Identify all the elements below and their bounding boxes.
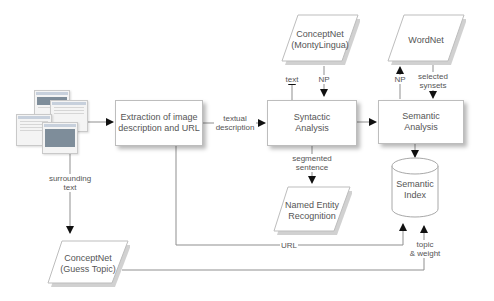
web-pages-image [14, 90, 88, 154]
semantic-label-1: Semantic [402, 111, 440, 122]
syntactic-label-2: Analysis [294, 123, 331, 134]
edge-label-surrounding-text: surrounding text [48, 174, 92, 192]
conceptnet-guess-topic-node: ConceptNet (Guess Topic) [46, 240, 130, 288]
conceptnet-guess-label-1: ConceptNet [60, 253, 115, 264]
edge-label-selected-synsets: selected synsets [417, 72, 449, 90]
syntactic-label-1: Syntactic [294, 112, 331, 123]
edge-label-np-wordnet: NP [393, 75, 407, 84]
semantic-analysis-box: Semantic Analysis [378, 100, 464, 144]
edge-label-text: text [283, 75, 301, 84]
conceptnet-montylingua-node: ConceptNet (MontyLingua) [280, 14, 360, 66]
semantic-label-2: Analysis [402, 122, 440, 133]
named-entity-recognition-node: Named Entity Recognition [272, 186, 352, 236]
semantic-index-database: Semantic Index [391, 157, 439, 219]
extraction-label-1: Extraction of image [118, 112, 200, 123]
conceptnet-monty-label-2: (MontyLingua) [291, 40, 349, 51]
syntactic-analysis-box: Syntactic Analysis [267, 100, 357, 146]
edge-label-url: URL [280, 241, 298, 250]
conceptnet-guess-label-2: (Guess Topic) [60, 264, 115, 275]
semantic-index-label-1: Semantic [391, 179, 439, 190]
extraction-box: Extraction of image description and URL [115, 100, 203, 146]
flow-diagram: Extraction of image description and URL … [0, 0, 494, 301]
edge-label-topic-weight: topic & weight [407, 240, 443, 258]
edge-label-textual-description: textual description [214, 114, 256, 132]
edge-label-segmented-sentence: segmented sentence [291, 154, 333, 172]
extraction-label-2: description and URL [118, 123, 200, 134]
ner-label-1: Named Entity [285, 200, 339, 211]
conceptnet-monty-label-1: ConceptNet [291, 29, 349, 40]
wordnet-label: WordNet [408, 35, 443, 46]
ner-label-2: Recognition [285, 211, 339, 222]
wordnet-node: WordNet [386, 14, 466, 66]
semantic-index-label-2: Index [391, 190, 439, 201]
edge-label-np-monty: NP [316, 75, 332, 84]
